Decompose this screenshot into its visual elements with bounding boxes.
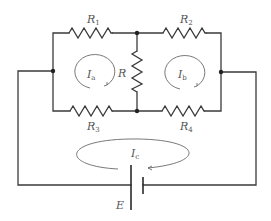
loop-arrow-ia (75, 55, 115, 88)
node-left (51, 69, 55, 73)
label-r: R (117, 67, 126, 80)
label-r4: R4 (179, 120, 193, 134)
label-ia: Ia (86, 68, 96, 82)
resistor-r2 (163, 28, 207, 38)
resistor-r4 (162, 106, 205, 116)
label-r1: R1 (86, 13, 100, 27)
loop-arrow-ib (165, 56, 205, 89)
label-ib: Ib (177, 68, 187, 82)
outer-wire (18, 71, 256, 185)
label-e: E (115, 199, 124, 212)
label-r2: R2 (179, 13, 193, 27)
node-bottom-center (135, 109, 139, 113)
resistor-r (132, 51, 142, 92)
label-ic: Ic (130, 147, 139, 161)
battery-e (131, 165, 143, 210)
label-r3: R3 (86, 120, 100, 134)
circuit-diagram: R1 R2 R3 R4 R Ia Ib Ic E (0, 0, 271, 221)
resistor-r1 (69, 28, 113, 38)
resistor-r3 (70, 106, 113, 116)
node-top-center (135, 31, 139, 35)
node-right (219, 70, 223, 74)
